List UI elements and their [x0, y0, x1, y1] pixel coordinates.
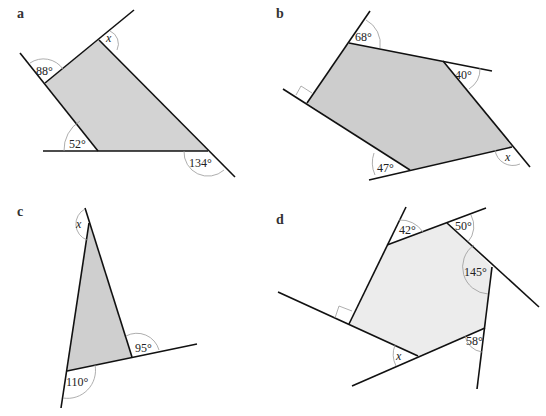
angle-label: 95°	[135, 341, 152, 355]
exterior-angles-diagram: a 88° x 52° 134° b 68° 40° 47° x c	[0, 0, 546, 416]
figure-a-label: a	[17, 6, 24, 21]
angle-label: 88°	[36, 64, 53, 78]
angle-label-x: x	[395, 349, 402, 363]
angle-label-x: x	[504, 150, 511, 164]
angle-label: 58°	[466, 334, 483, 348]
figure-d: d 42° 50° 145° 58° x	[276, 207, 539, 389]
figure-c: c x 95° 110°	[17, 204, 197, 408]
figure-d-label: d	[276, 212, 284, 227]
figure-c-label: c	[17, 204, 23, 219]
angle-label-x: x	[75, 217, 82, 231]
figure-a: a 88° x 52° 134°	[17, 6, 235, 177]
figure-a-shape	[45, 40, 208, 151]
angle-label: 134°	[189, 156, 212, 170]
angle-label: 47°	[377, 161, 394, 175]
figure-c-shape	[67, 223, 132, 371]
angle-label-x: x	[105, 31, 112, 45]
angle-label: 50°	[455, 219, 472, 233]
figure-b-label: b	[276, 6, 284, 21]
figure-b: b 68° 40° 47° x	[276, 6, 530, 180]
angle-label: 68°	[355, 30, 372, 44]
angle-label: 42°	[399, 223, 416, 237]
angle-label: 40°	[455, 68, 472, 82]
angle-label: 52°	[69, 137, 86, 151]
angle-label: 145°	[464, 265, 487, 279]
angle-label: 110°	[66, 375, 89, 389]
